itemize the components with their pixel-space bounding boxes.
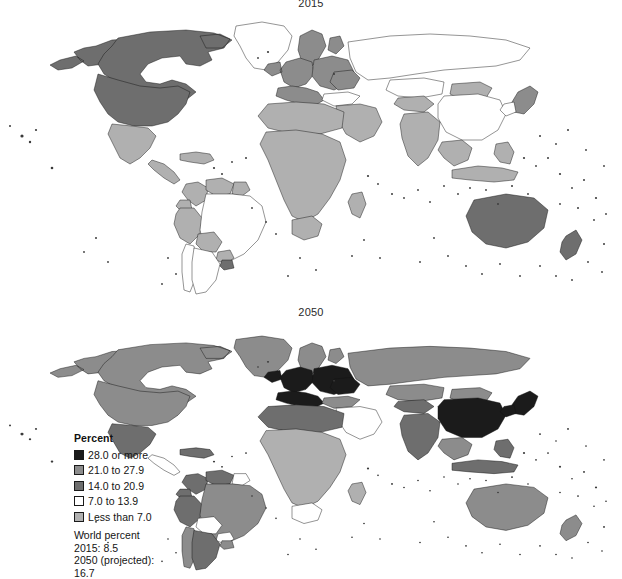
map-island-speck — [559, 466, 561, 468]
map-island-speck — [585, 445, 587, 447]
legend-world-percent-2050-value: 16.7 — [74, 567, 194, 579]
map-island-speck — [107, 261, 109, 263]
map-island-speck — [595, 197, 597, 199]
map-island-speck — [539, 265, 541, 267]
map-region-new-zealand — [560, 230, 582, 260]
map-island-speck — [457, 193, 459, 195]
map-island-speck — [567, 129, 569, 131]
map-island-speck — [583, 179, 585, 181]
map-island-speck — [497, 203, 499, 205]
map-island-speck — [559, 492, 561, 494]
map-island-speck — [555, 143, 557, 145]
legend-label-14-to-20: 14.0 to 20.9 — [88, 480, 144, 492]
map-island-speck — [275, 233, 277, 235]
map-island-speck — [539, 135, 541, 137]
legend-item-7-to-13: 7.0 to 13.9 — [74, 494, 194, 509]
map-region-guyanas — [232, 474, 250, 486]
map-island-speck — [403, 487, 405, 489]
map-island-speck — [499, 543, 501, 545]
map-island-speck — [265, 507, 267, 509]
legend-world-percent-2050-label: 2050 (projected): — [74, 554, 194, 567]
map-island-speck — [379, 538, 381, 540]
map-island-speck — [559, 203, 561, 205]
map-region-china — [438, 398, 506, 438]
legend-item-21-to-27: 21.0 to 27.9 — [74, 463, 194, 478]
legend-swatch-28-or-more — [74, 450, 84, 460]
map-island-speck — [593, 506, 595, 508]
legend-label-21-to-27: 21.0 to 27.9 — [88, 464, 144, 476]
map-region-north-africa — [258, 102, 344, 134]
map-region-japan — [512, 86, 538, 114]
map-island-speck — [51, 460, 54, 462]
map-island-speck — [419, 542, 421, 544]
legend-item-less-than-7: Less than 7.0 — [74, 509, 194, 524]
map-island-speck — [457, 483, 459, 485]
map-svg-2015 — [0, 8, 622, 296]
legend-item-28-or-more: 28.0 or more — [74, 447, 194, 462]
map-island-speck — [315, 549, 317, 551]
map-region-kazakhstan — [386, 384, 444, 401]
map-region-indonesia — [452, 460, 518, 474]
map-region-greenland — [234, 336, 292, 377]
map-region-middle-east — [336, 104, 382, 142]
map-region-sub-saharan-africa — [260, 130, 346, 222]
map-island-speck — [51, 167, 54, 170]
map-island-speck — [287, 275, 289, 277]
legend-swatch-7-to-13 — [74, 496, 84, 506]
map-region-uruguay — [220, 260, 234, 270]
map-region-turkey — [322, 92, 360, 106]
map-island-speck — [175, 273, 177, 275]
map-island-speck — [539, 545, 541, 547]
map-region-south-africa — [292, 503, 322, 524]
map-island-speck — [539, 433, 541, 435]
map-island-speck — [571, 187, 573, 189]
map-region-southeast-asia — [438, 140, 472, 166]
map-region-turkey — [322, 396, 360, 408]
map-island-speck — [351, 255, 353, 257]
map-island-speck — [603, 165, 605, 167]
map-island-speck — [377, 183, 379, 185]
map-island-speck — [527, 483, 529, 485]
map-island-speck — [367, 175, 369, 177]
map-region-madagascar — [348, 192, 366, 218]
map-island-speck — [577, 495, 579, 497]
map-island-speck — [601, 550, 603, 552]
map-region-guyanas — [232, 182, 250, 196]
map-island-speck — [571, 478, 573, 480]
map-island-speck — [417, 480, 419, 482]
map-region-philippines — [494, 439, 514, 458]
map-island-speck — [447, 255, 449, 257]
map-island-speck — [35, 129, 37, 131]
map-island-speck — [605, 500, 607, 502]
map-island-speck — [417, 189, 419, 191]
map-island-speck — [213, 167, 215, 169]
map-island-speck — [315, 269, 317, 271]
map-region-venezuela — [206, 470, 234, 485]
map-island-speck — [535, 165, 537, 167]
map-island-speck — [245, 452, 247, 454]
map-region-australia — [466, 194, 548, 248]
map-island-speck — [527, 193, 529, 195]
map-island-speck — [601, 271, 603, 273]
map-region-kazakhstan — [386, 78, 444, 98]
legend-label-less-than-7: Less than 7.0 — [88, 511, 152, 523]
map-island-speck — [555, 440, 557, 442]
map-island-speck — [587, 542, 589, 544]
map-island-speck — [9, 125, 11, 127]
map-island-speck — [29, 141, 31, 143]
map-region-southeast-asia — [438, 438, 472, 460]
map-island-speck — [245, 157, 247, 159]
map-island-speck — [231, 456, 233, 458]
map-island-speck — [603, 526, 605, 528]
map-region-india — [400, 413, 440, 459]
map-island-speck — [333, 380, 335, 382]
map-island-speck — [433, 237, 435, 239]
map-island-speck — [265, 221, 267, 223]
legend-swatch-14-to-20 — [74, 481, 84, 491]
map-island-speck — [519, 275, 521, 277]
map-island-speck — [333, 73, 335, 75]
map-island-speck — [519, 554, 521, 556]
map-island-speck — [555, 275, 557, 277]
legend-title: Percent — [74, 432, 194, 444]
map-island-speck — [577, 207, 579, 209]
